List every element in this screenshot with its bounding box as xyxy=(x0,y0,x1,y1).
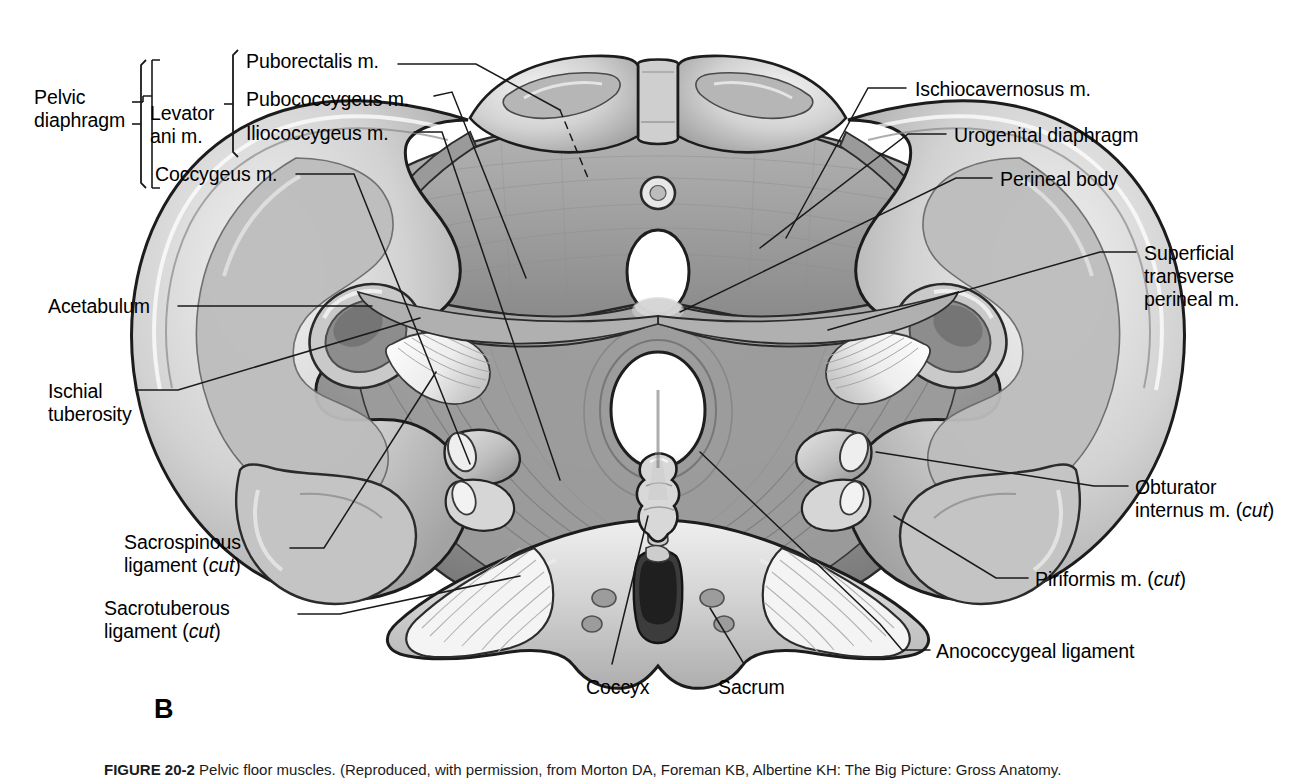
panel-letter: B xyxy=(154,694,174,725)
label-ischiocavernosus: Ischiocavernosus m. xyxy=(915,78,1091,101)
label-pelvic-diaphragm: Pelvicdiaphragm xyxy=(34,86,125,132)
label-perineal-body: Perineal body xyxy=(1000,168,1118,191)
caption-number: FIGURE 20-2 xyxy=(104,761,195,778)
label-sacrum: Sacrum xyxy=(718,676,785,699)
label-obturator-internus: Obturatorinternus m. (cut) xyxy=(1135,476,1274,522)
caption-text: Pelvic floor muscles. (Reproduced, with … xyxy=(199,761,1061,778)
label-coccygeus: Coccygeus m. xyxy=(155,163,277,186)
pubic-symphysis xyxy=(638,60,678,145)
label-pubococcygeus: Pubococcygeus m. xyxy=(246,88,409,111)
label-ischial-tuberosity: Ischialtuberosity xyxy=(48,380,132,426)
label-sacrospinous-ligament: Sacrospinousligament (cut) xyxy=(124,531,241,577)
pubic-body-left xyxy=(470,56,638,152)
label-puborectalis: Puborectalis m. xyxy=(246,50,379,73)
label-urogenital-diaphragm: Urogenital diaphragm xyxy=(954,124,1138,147)
figure-caption: FIGURE 20-2 Pelvic floor muscles. (Repro… xyxy=(104,760,1304,779)
label-iliococcygeus: Iliococcygeus m. xyxy=(246,122,389,145)
urethral-orifice xyxy=(641,177,675,209)
pubic-body-right xyxy=(678,56,846,152)
label-superficial-transverse-perineal: Superficialtransverseperineal m. xyxy=(1144,242,1239,311)
label-anococcygeal-ligament: Anococcygeal ligament xyxy=(936,640,1134,663)
label-acetabulum: Acetabulum xyxy=(48,295,150,318)
label-levator-ani: Levatorani m. xyxy=(150,102,214,148)
label-sacrotuberous-ligament: Sacrotuberousligament (cut) xyxy=(104,597,230,643)
label-piriformis: Piriformis m. (cut) xyxy=(1035,568,1186,591)
label-coccyx: Coccyx xyxy=(586,676,649,699)
